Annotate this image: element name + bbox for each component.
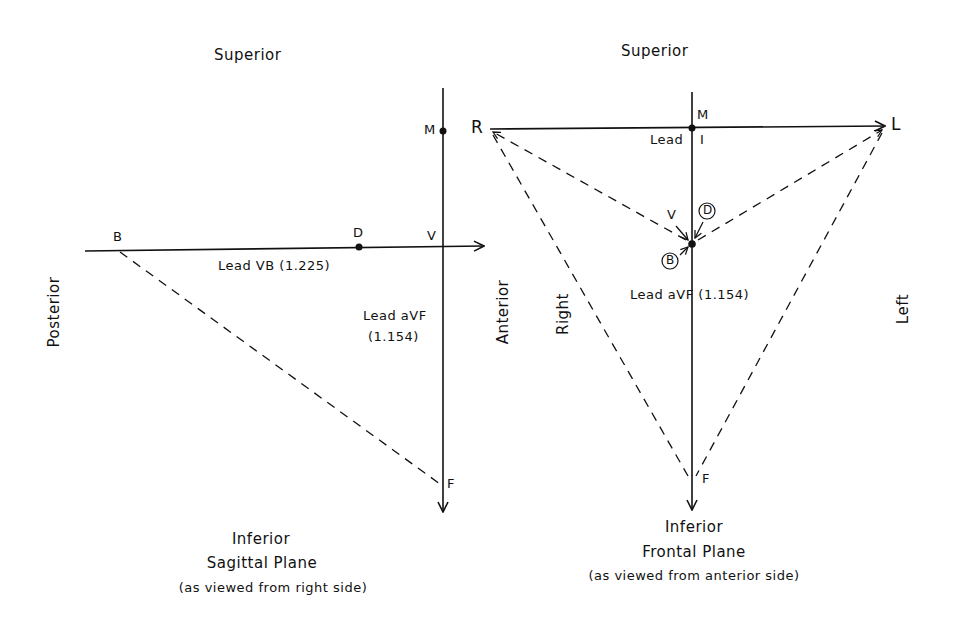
lead-vb-axis xyxy=(85,246,484,251)
point-m-dot xyxy=(440,128,447,135)
frontal-superior-label: Superior xyxy=(621,42,688,60)
frontal-plane-subtitle: (as viewed from anterior side) xyxy=(588,568,799,583)
sagittal-plane xyxy=(85,88,484,512)
dashed-center-to-r xyxy=(493,132,686,240)
frontal-point-m: M xyxy=(697,107,709,122)
sagittal-subtitle-wrap: (as viewed from right side) xyxy=(273,580,462,595)
lead-i-axis xyxy=(490,126,885,129)
anterior-label: Anterior xyxy=(494,271,512,353)
frontal-point-d-circled: D xyxy=(703,203,713,217)
sagittal-point-d: D xyxy=(353,225,364,240)
frontal-inferior-text: Inferior xyxy=(665,518,723,536)
dashed-r-to-f xyxy=(493,135,688,476)
sagittal-point-f: F xyxy=(447,476,455,491)
frontal-subtitle-wrap: (as viewed from anterior side) xyxy=(694,568,905,583)
sagittal-superior-label: Superior xyxy=(214,46,281,64)
lead-avf-frontal-label: Lead aVF (1.154) xyxy=(630,287,749,302)
diagram-canvas xyxy=(0,0,956,623)
sagittal-point-v: V xyxy=(427,228,436,243)
point-d-dot xyxy=(356,244,363,251)
left-label: Left xyxy=(894,284,912,334)
sagittal-plane-title: Sagittal Plane xyxy=(207,554,317,572)
frontal-point-b-circled: B xyxy=(666,253,675,267)
dashed-center-to-l xyxy=(698,130,882,240)
arrow-b-to-center xyxy=(680,247,688,255)
frontal-plane-title: Frontal Plane xyxy=(642,543,746,561)
lead-i-label-numeral: I xyxy=(700,132,704,147)
frontal-point-v: V xyxy=(667,207,676,222)
sagittal-inferior-text: Inferior xyxy=(232,530,290,548)
right-label: Right xyxy=(554,284,572,344)
frontal-inferior-wrap: Inferior xyxy=(694,518,752,536)
frontal-point-f: F xyxy=(702,471,710,486)
sagittal-point-m: M xyxy=(424,122,436,137)
arrow-d-to-center xyxy=(695,222,703,238)
center-dot xyxy=(688,240,696,248)
lead-avf-label-line1: Lead aVF xyxy=(363,308,427,323)
frontal-point-r: R xyxy=(471,117,483,137)
dashed-b-to-f xyxy=(120,252,440,484)
lead-avf-label-line2: (1.154) xyxy=(368,329,419,344)
frontal-title-wrap: Frontal Plane xyxy=(694,543,798,561)
sagittal-plane-subtitle: (as viewed from right side) xyxy=(179,580,368,595)
dashed-l-to-f xyxy=(696,133,882,476)
sagittal-point-b: B xyxy=(113,229,122,244)
lead-i-label-text: Lead xyxy=(650,132,683,147)
sagittal-title-wrap: Sagittal Plane xyxy=(262,554,372,572)
frontal-point-l: L xyxy=(891,114,901,134)
sagittal-inferior-label: Inferior xyxy=(261,530,319,548)
posterior-label: Posterior xyxy=(45,266,63,358)
lead-vb-label: Lead VB (1.225) xyxy=(218,258,330,273)
point-m-dot-frontal xyxy=(689,125,696,132)
